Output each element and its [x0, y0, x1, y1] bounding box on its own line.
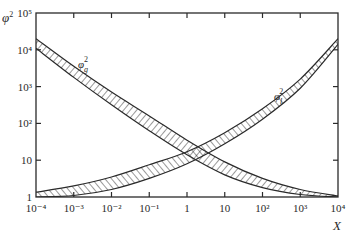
x-tick-labels: 10⁻⁴10⁻³10⁻²10⁻¹11010²10³10⁴ [26, 202, 346, 214]
x-tick-label: 10⁻⁴ [26, 202, 47, 214]
y-tick-label: 1 [27, 191, 33, 203]
y-tick-labels: 11010²10³10⁴10⁵ [17, 7, 33, 203]
y-tick-label: 10⁵ [17, 7, 32, 19]
y-axis-label: φ2 [2, 10, 13, 25]
y-tick-label: 10² [18, 117, 33, 129]
lockhart-martinelli-chart: 10⁻⁴10⁻³10⁻²10⁻¹11010²10³10⁴ 11010²10³10… [0, 0, 354, 237]
y-tick-label: 10³ [18, 81, 33, 93]
x-tick-label: 10⁴ [331, 202, 346, 214]
x-tick-label: 10⁻³ [64, 202, 85, 214]
x-tick-label: 10⁻¹ [139, 202, 159, 214]
x-axis-label: X [332, 218, 342, 233]
plot-frame [36, 13, 338, 197]
x-tick-label: 10 [219, 202, 231, 214]
x-tick-label: 1 [184, 202, 190, 214]
x-tick-label: 10² [255, 202, 270, 214]
axis-ticks [36, 13, 338, 197]
y-tick-label: 10⁴ [17, 44, 32, 56]
y-tick-label: 10 [21, 154, 33, 166]
x-tick-label: 10³ [293, 202, 308, 214]
x-tick-label: 10⁻² [101, 202, 122, 214]
